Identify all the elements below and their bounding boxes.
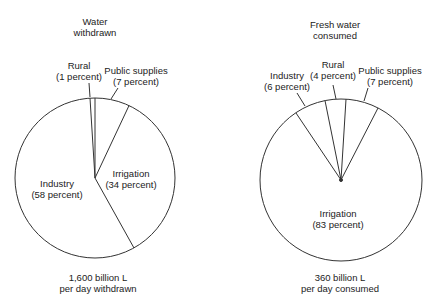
withdrawn-title: Water withdrawn	[74, 16, 117, 38]
label-name: Public supplies	[358, 65, 421, 76]
consumed-public-label: Public supplies (7 percent)	[358, 65, 421, 87]
pie-charts-svg	[0, 0, 428, 304]
label-value: (6 percent)	[264, 81, 310, 92]
consumed-rural-label: Rural (4 percent)	[310, 59, 356, 81]
consumed-pie	[260, 85, 422, 261]
label-name: Irrigation	[105, 168, 156, 179]
label-name: Public supplies	[104, 65, 167, 76]
label-name: Rural	[310, 59, 356, 70]
label-value: (7 percent)	[104, 76, 167, 87]
label-value: (34 percent)	[105, 179, 156, 190]
label-value: (1 percent)	[56, 71, 102, 82]
total-line: per day consumed	[301, 283, 379, 294]
label-value: (58 percent)	[31, 189, 82, 200]
label-name: Industry	[264, 70, 310, 81]
label-value: (7 percent)	[358, 76, 421, 87]
withdrawn-rural-label: Rural (1 percent)	[56, 60, 102, 82]
total-line: per day withdrawn	[59, 283, 136, 294]
withdrawn-total: 1,600 billion L per day withdrawn	[59, 272, 136, 294]
withdrawn-public-label: Public supplies (7 percent)	[104, 65, 167, 87]
total-line: 1,600 billion L	[59, 272, 136, 283]
consumed-title: Fresh water consumed	[310, 19, 360, 41]
title-line: Water	[74, 16, 117, 27]
label-value: (4 percent)	[310, 70, 356, 81]
title-line: withdrawn	[74, 27, 117, 38]
label-name: Industry	[31, 178, 82, 189]
consumed-total: 360 billion L per day consumed	[301, 272, 379, 294]
total-line: 360 billion L	[301, 272, 379, 283]
title-line: Fresh water	[310, 19, 360, 30]
label-name: Irrigation	[312, 208, 363, 219]
consumed-irrigation-label: Irrigation (83 percent)	[312, 208, 363, 230]
withdrawn-industry-label: Industry (58 percent)	[31, 178, 82, 200]
label-name: Rural	[56, 60, 102, 71]
title-line: consumed	[310, 30, 360, 41]
consumed-industry-label: Industry (6 percent)	[264, 70, 310, 92]
label-value: (83 percent)	[312, 219, 363, 230]
withdrawn-irrigation-label: Irrigation (34 percent)	[105, 168, 156, 190]
